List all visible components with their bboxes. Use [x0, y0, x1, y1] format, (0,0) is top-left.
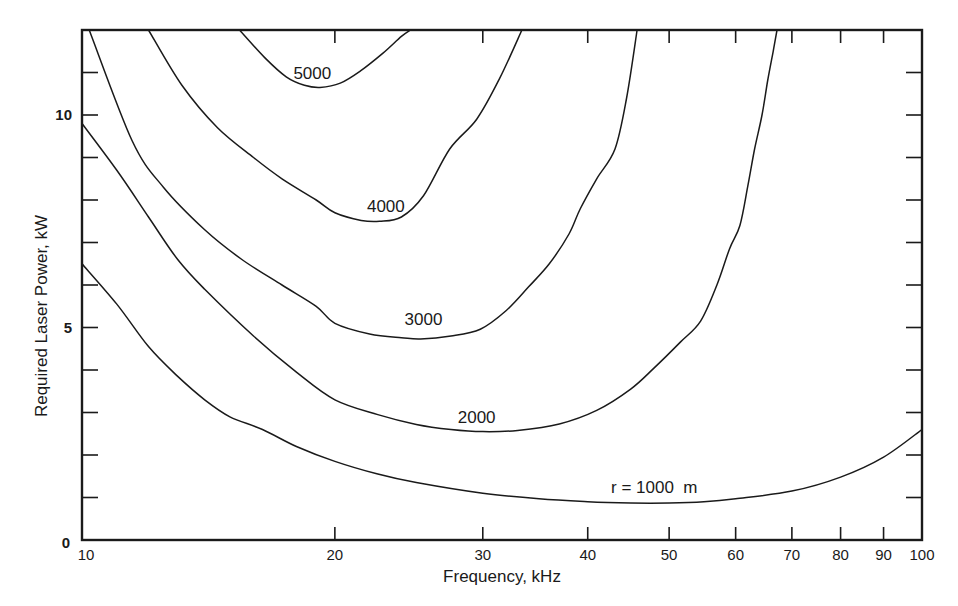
x-tick-label: 60 [727, 546, 744, 563]
y-tick-label: 5 [64, 319, 72, 336]
x-tick-label: 70 [784, 546, 801, 563]
y-tick-label: 0 [62, 534, 70, 551]
curve-label: 5000 [293, 64, 331, 83]
x-tick-label: 30 [474, 546, 491, 563]
x-tick-label: 40 [579, 546, 596, 563]
curve-label: r = 1000 m [611, 478, 697, 497]
data-curves [82, 30, 922, 503]
curve-label: 3000 [405, 310, 443, 329]
curve-3000 [89, 30, 637, 339]
plot-frame [82, 30, 922, 540]
x-tick-label: 20 [327, 546, 344, 563]
y-axis-title: Required Laser Power, kW [32, 215, 51, 417]
curve-1000 [82, 264, 922, 503]
curve-4000 [149, 30, 522, 222]
x-tick-label: 50 [661, 546, 678, 563]
curve-label: 4000 [367, 197, 405, 216]
curve-label: 2000 [458, 408, 496, 427]
x-tick-label: 90 [875, 546, 892, 563]
axis-ticks [82, 30, 922, 540]
x-tick-label: 80 [832, 546, 849, 563]
x-tick-label: 10 [78, 546, 95, 563]
x-tick-label: 100 [909, 546, 934, 563]
y-tick-label: 10 [55, 106, 72, 123]
chart: r = 1000 m2000300040005000 1020304050607… [0, 0, 958, 606]
x-axis-title: Frequency, kHz [443, 567, 561, 586]
